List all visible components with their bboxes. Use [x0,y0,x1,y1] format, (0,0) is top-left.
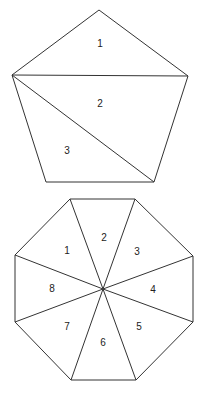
octagon-figure: 1 2 3 4 5 6 7 8 [15,199,193,380]
pentagon-label-1: 1 [97,38,103,49]
pentagon-diagonals [12,75,188,182]
octagon-spoke [103,289,136,380]
octagon-spoke [71,289,103,380]
octagon-label-4: 4 [150,284,156,295]
octagon-spoke [103,199,135,289]
pentagon-diagonal [12,75,188,76]
pentagon-label-2: 2 [97,98,103,109]
octagon-label-8: 8 [49,283,55,294]
octagon-spoke [103,289,193,322]
octagon-label-3: 3 [134,246,140,257]
pentagon-label-3: 3 [64,145,70,156]
octagon-spoke [103,256,193,289]
octagon-label-6: 6 [100,337,106,348]
octagon-label-2: 2 [101,232,107,243]
octagon-label-7: 7 [64,321,70,332]
octagon-spoke [15,289,103,322]
octagon-spoke [15,255,103,289]
octagon-label-1: 1 [64,245,70,256]
pentagon-figure: 1 2 3 [12,10,188,182]
octagon-spokes [15,199,193,380]
octagon-spoke [70,199,103,289]
diagram-canvas: 1 2 3 1 2 3 4 5 6 7 8 [0,0,205,394]
pentagon-diagonal [12,75,154,182]
octagon-label-5: 5 [136,321,142,332]
pentagon-outline [12,10,188,182]
